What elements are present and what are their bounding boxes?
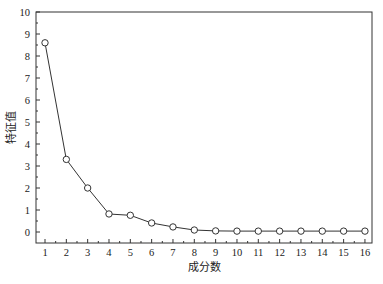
y-tick-label: 5	[25, 117, 30, 128]
x-tick-label: 9	[213, 247, 218, 258]
data-point-marker	[127, 212, 133, 218]
x-tick-label: 5	[128, 247, 133, 258]
x-tick-label: 16	[360, 247, 371, 258]
data-point-marker	[319, 228, 325, 234]
x-tick-label: 12	[274, 247, 285, 258]
y-tick-label: 4	[25, 139, 31, 150]
data-point-marker	[212, 228, 218, 234]
data-point-marker	[276, 228, 282, 234]
data-point-marker	[191, 227, 197, 233]
x-tick-label: 11	[253, 247, 263, 258]
scree-plot: 012345678910 12345678910111213141516 成分数…	[0, 0, 383, 284]
data-point-marker	[148, 220, 154, 226]
x-tick-label: 14	[317, 247, 328, 258]
x-tick-label: 4	[106, 247, 112, 258]
x-tick-label: 8	[192, 247, 197, 258]
x-tick-label: 15	[338, 247, 349, 258]
data-point-marker	[362, 228, 368, 234]
y-tick-label: 3	[25, 161, 30, 172]
data-point-marker	[63, 156, 69, 162]
data-point-marker	[84, 185, 90, 191]
x-tick-label: 3	[85, 247, 90, 258]
data-point-marker	[106, 211, 112, 217]
series-line	[45, 43, 365, 231]
y-tick-label: 8	[25, 51, 30, 62]
x-tick-label: 2	[64, 247, 69, 258]
x-tick-label: 10	[232, 247, 243, 258]
y-tick-label: 7	[25, 73, 30, 84]
plot-border	[36, 12, 372, 243]
x-tick-label: 1	[42, 247, 47, 258]
data-point-marker	[298, 228, 304, 234]
x-axis-title: 成分数	[188, 261, 221, 274]
y-axis: 012345678910	[20, 7, 41, 238]
x-tick-label: 6	[149, 247, 154, 258]
eigenvalue-series	[42, 40, 368, 235]
y-tick-label: 0	[25, 227, 30, 238]
y-tick-label: 6	[25, 95, 30, 106]
plot-frame	[36, 12, 372, 243]
data-point-marker	[170, 224, 176, 230]
x-tick-label: 13	[296, 247, 307, 258]
x-axis: 12345678910111213141516	[42, 239, 370, 258]
y-tick-label: 2	[25, 183, 30, 194]
y-axis-title: 特征值	[4, 111, 18, 144]
y-tick-label: 9	[25, 29, 30, 40]
y-tick-label: 10	[20, 7, 31, 18]
x-tick-label: 7	[170, 247, 175, 258]
data-point-marker	[340, 228, 346, 234]
y-tick-label: 1	[25, 205, 30, 216]
data-point-marker	[42, 40, 48, 46]
data-point-marker	[234, 228, 240, 234]
data-point-marker	[255, 228, 261, 234]
